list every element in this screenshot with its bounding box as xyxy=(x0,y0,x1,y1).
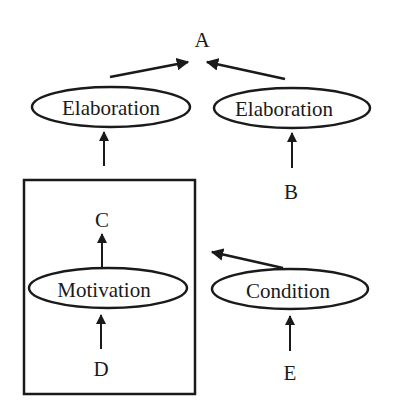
node-a-label: A xyxy=(194,28,210,52)
node-d-label: D xyxy=(93,357,108,381)
node-elaboration-left: Elaboration xyxy=(32,87,190,127)
node-b-label: B xyxy=(284,180,298,204)
node-c-label: C xyxy=(95,208,109,232)
node-condition: Condition xyxy=(212,269,368,309)
arrow-elaboration-left-to-a xyxy=(110,62,188,77)
node-motivation-label: Motivation xyxy=(57,278,151,302)
node-elaboration-left-label: Elaboration xyxy=(62,96,160,120)
diagram-canvas: A Elaboration Elaboration B C Motivation xyxy=(0,0,395,419)
node-elaboration-right-label: Elaboration xyxy=(235,97,333,121)
node-motivation: Motivation xyxy=(29,268,187,308)
arrow-condition-to-box xyxy=(212,252,283,268)
node-elaboration-right: Elaboration xyxy=(214,88,370,128)
diagram-svg: A Elaboration Elaboration B C Motivation xyxy=(0,0,395,419)
node-e-label: E xyxy=(284,361,297,385)
arrow-elaboration-right-to-a xyxy=(207,62,285,79)
node-condition-label: Condition xyxy=(246,279,331,303)
